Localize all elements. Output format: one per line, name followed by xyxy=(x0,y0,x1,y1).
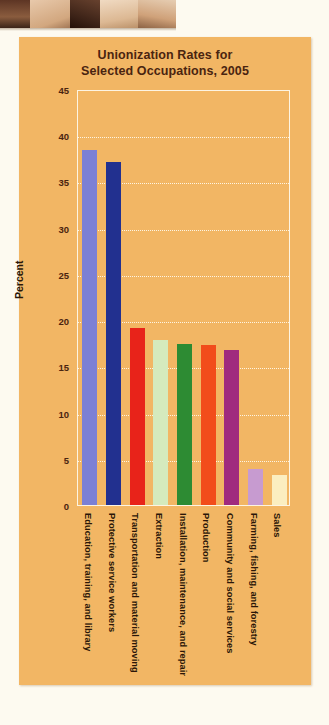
chart-panel: Unionization Rates for Selected Occupati… xyxy=(19,37,311,685)
y-tick-5: 5 xyxy=(64,454,69,465)
y-tick-45: 45 xyxy=(58,85,69,96)
y-tick-40: 40 xyxy=(58,131,69,142)
bar xyxy=(106,162,121,505)
y-tick-20: 20 xyxy=(58,316,69,327)
y-tick-35: 35 xyxy=(58,177,69,188)
photo-segment xyxy=(0,0,34,28)
bar xyxy=(224,350,239,505)
y-axis-tick-labels: 051015202530354045 xyxy=(19,37,75,685)
bar xyxy=(82,150,97,505)
y-tick-30: 30 xyxy=(58,223,69,234)
plot-wrapper: Percent 051015202530354045 Education, tr… xyxy=(19,37,311,685)
header-photo-strip xyxy=(0,0,176,28)
bar xyxy=(130,328,145,505)
x-tick-label: Sales xyxy=(272,513,282,538)
bar xyxy=(177,344,192,505)
y-tick-10: 10 xyxy=(58,408,69,419)
gridline-40 xyxy=(78,137,289,138)
x-tick-label: Farming, fishing, and forestry xyxy=(249,513,259,646)
plot-area xyxy=(77,90,290,506)
bar xyxy=(201,345,216,505)
x-tick-label: Production xyxy=(201,513,211,563)
x-tick-label: Extraction xyxy=(154,513,164,559)
y-tick-25: 25 xyxy=(58,269,69,280)
bar xyxy=(153,340,168,505)
x-tick-label: Protective service workers xyxy=(107,513,117,632)
photo-segment xyxy=(30,0,74,28)
y-tick-0: 0 xyxy=(64,501,69,512)
photo-segment xyxy=(138,0,176,28)
photo-shadow xyxy=(0,28,176,31)
bar xyxy=(248,469,263,505)
x-tick-label: Transportation and material moving xyxy=(130,513,140,673)
x-tick-label: Installation, maintenance, and repair xyxy=(178,513,188,676)
y-tick-15: 15 xyxy=(58,362,69,373)
bar xyxy=(272,475,287,506)
x-tick-label: Community and social services xyxy=(225,513,235,653)
x-tick-label: Education, training, and library xyxy=(83,513,93,652)
photo-segment xyxy=(100,0,142,28)
